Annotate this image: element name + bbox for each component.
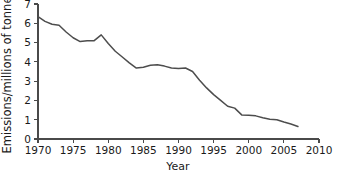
y-tick-label: 2 (24, 94, 31, 106)
emissions-data-line (38, 17, 298, 127)
y-tick-label: 7 (24, 0, 31, 10)
x-axis-title: Year (165, 160, 190, 173)
x-tick-label: 1995 (200, 144, 227, 156)
emissions-line-chart: 01234567 1970197519801985199019952000200… (0, 0, 343, 177)
x-axis: 197019751980198519901995200020052010 (25, 139, 333, 156)
y-tick-label: 5 (24, 36, 31, 48)
y-tick-labels: 01234567 (24, 0, 31, 145)
y-axis-title: Emissions/millions of tonnes (0, 0, 14, 153)
x-tick-marks (38, 139, 319, 143)
y-tick-label: 3 (24, 75, 31, 87)
x-tick-label: 1990 (165, 144, 192, 156)
x-tick-label: 1980 (95, 144, 122, 156)
x-tick-label: 1970 (25, 144, 52, 156)
y-tick-label: 4 (24, 56, 31, 68)
x-tick-label: 1975 (60, 144, 87, 156)
x-tick-labels: 197019751980198519901995200020052010 (25, 144, 333, 156)
chart-plot-area: 01234567 1970197519801985199019952000200… (0, 0, 343, 177)
y-tick-label: 1 (24, 114, 31, 126)
y-tick-label: 6 (24, 17, 31, 29)
y-axis: 01234567 (24, 0, 38, 145)
x-tick-label: 1985 (130, 144, 157, 156)
x-tick-label: 2010 (306, 144, 333, 156)
x-tick-label: 2005 (271, 144, 298, 156)
x-tick-label: 2000 (235, 144, 262, 156)
y-tick-label: 0 (24, 133, 31, 145)
